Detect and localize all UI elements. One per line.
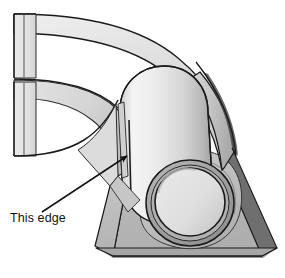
- base-plate-front-face: [96, 248, 277, 256]
- left-cut-face-upper: [14, 14, 36, 78]
- callout-label: This edge: [10, 211, 66, 225]
- cad-illustration: This edge: [0, 0, 285, 278]
- left-cut-face-lower: [14, 82, 36, 156]
- cad-figure: This edge: [0, 0, 285, 278]
